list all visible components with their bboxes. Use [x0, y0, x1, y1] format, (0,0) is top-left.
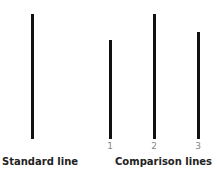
comparison-line-3: [197, 32, 200, 139]
comparison-line-1: [109, 40, 112, 139]
comparison-line-2-number: 2: [149, 141, 159, 151]
standard-line-caption: Standard line: [2, 156, 78, 167]
standard-line: [31, 14, 34, 139]
comparison-line-1-number: 1: [105, 141, 115, 151]
comparison-lines-caption: Comparison lines: [115, 156, 212, 167]
comparison-line-3-number: 3: [193, 141, 203, 151]
comparison-line-2: [153, 14, 156, 139]
